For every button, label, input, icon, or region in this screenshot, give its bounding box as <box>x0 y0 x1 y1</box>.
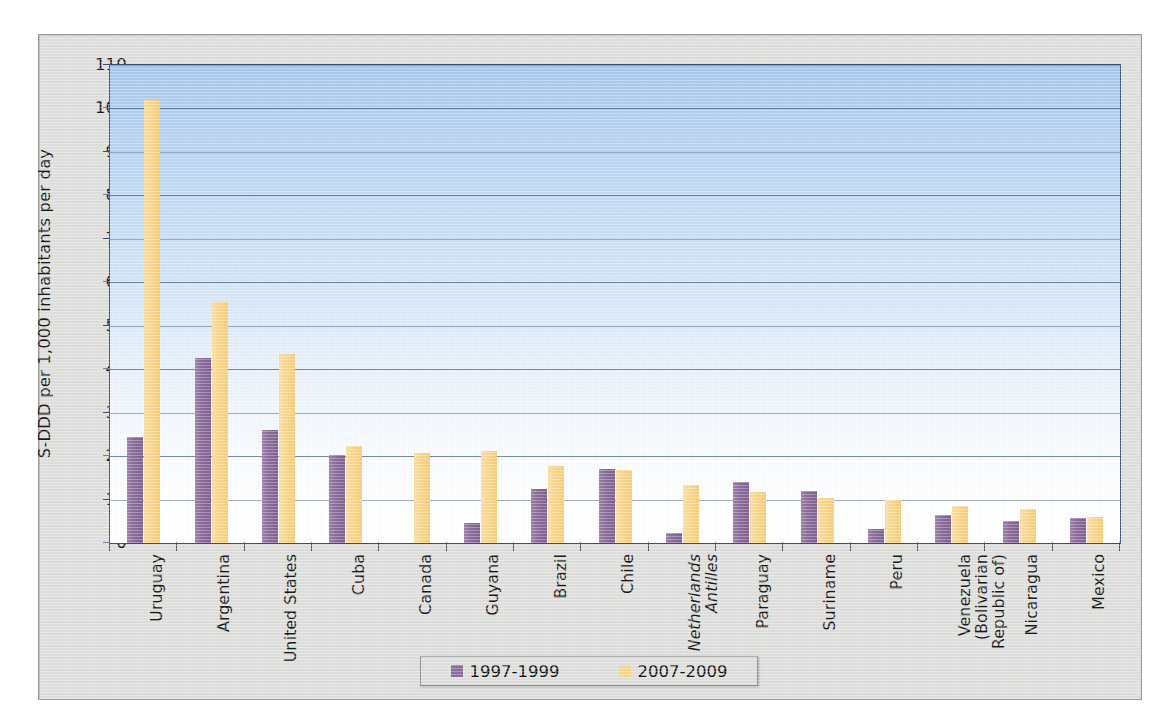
x-axis-label-line: Suriname <box>820 554 839 631</box>
bar <box>212 302 228 543</box>
x-axis-label-line: Argentina <box>214 554 233 632</box>
x-axis-tick-label: Venezuela(BolivarianRepublic of) <box>957 554 1008 722</box>
x-axis-tick-mark <box>715 542 716 551</box>
x-axis-tick-label: Guyana <box>485 554 502 722</box>
bar <box>1003 521 1019 543</box>
x-axis-tick-label: Chile <box>620 554 637 722</box>
x-axis-tick-label: Mexico <box>1091 554 1108 722</box>
bar <box>750 492 766 543</box>
x-axis-tick-label: Suriname <box>822 554 839 722</box>
chart-legend: 1997-19992007-2009 <box>420 656 758 686</box>
bar <box>1087 517 1103 543</box>
x-axis-label-line: Uruguay <box>147 554 166 622</box>
x-axis-tick-mark <box>1119 542 1120 551</box>
x-axis-tick-mark <box>176 542 177 551</box>
x-axis-tick-mark <box>1052 542 1053 551</box>
bar-group <box>397 65 430 543</box>
x-axis-tick-mark <box>446 542 447 551</box>
bar <box>952 506 968 543</box>
bar <box>262 430 278 543</box>
x-axis-tick-mark <box>648 542 649 551</box>
x-axis-label-line: Brazil <box>551 554 570 599</box>
bar-group <box>464 65 497 543</box>
bar <box>801 491 817 543</box>
x-axis-tick-label: Argentina <box>216 554 233 722</box>
bar-group <box>127 65 160 543</box>
x-axis-tick-label: Cuba <box>351 554 368 722</box>
bar-group <box>666 65 699 543</box>
x-axis-tick-label: Canada <box>418 554 435 722</box>
x-axis-tick-mark <box>378 542 379 551</box>
bar-group <box>262 65 295 543</box>
bar <box>733 482 749 543</box>
x-axis-label-line: Mexico <box>1089 554 1108 610</box>
x-axis-label-line: Cuba <box>349 554 368 595</box>
bar <box>481 451 497 543</box>
bar <box>868 529 884 543</box>
bar-group <box>868 65 901 543</box>
bar-group <box>801 65 834 543</box>
x-axis-tick-label: NetherlandsAntilles <box>687 554 721 722</box>
x-axis-tick-mark <box>244 542 245 551</box>
bar-group <box>531 65 564 543</box>
bar <box>885 500 901 543</box>
x-axis-label-line: Venezuela <box>955 554 974 636</box>
bar-group <box>599 65 632 543</box>
bar-group <box>1070 65 1103 543</box>
bar <box>329 455 345 543</box>
legend-item[interactable]: 2007-2009 <box>619 662 728 681</box>
bar <box>279 354 295 543</box>
legend-label: 1997-1999 <box>470 662 560 681</box>
x-axis-tick-label: Peru <box>889 554 906 722</box>
bar <box>195 358 211 543</box>
bar <box>346 446 362 543</box>
bar <box>1070 518 1086 543</box>
legend-swatch-icon <box>451 665 463 677</box>
bar-group <box>733 65 766 543</box>
bar <box>144 100 160 543</box>
x-axis-tick-mark <box>109 542 110 551</box>
x-axis-label-line: Chile <box>618 554 637 594</box>
bar <box>127 437 143 543</box>
plot-area <box>109 64 1121 544</box>
bar-group <box>1003 65 1036 543</box>
legend-label: 2007-2009 <box>638 662 728 681</box>
x-axis-label-line: Antilles <box>704 554 721 722</box>
chart-figure: S-DDD per 1,000 inhabitants per day 0102… <box>38 34 1142 700</box>
x-axis-label-line: Canada <box>416 554 435 615</box>
bar <box>531 489 547 543</box>
x-axis-tick-mark <box>782 542 783 551</box>
legend-swatch-icon <box>619 665 631 677</box>
bar <box>935 515 951 543</box>
x-axis-label-line: Peru <box>887 554 906 590</box>
x-axis-tick-mark <box>850 542 851 551</box>
x-axis-tick-mark <box>513 542 514 551</box>
legend-item[interactable]: 1997-1999 <box>451 662 560 681</box>
bar-group <box>195 65 228 543</box>
x-axis-tick-label: Paraguay <box>755 554 772 722</box>
x-axis-tick-label: Brazil <box>553 554 570 722</box>
x-axis-tick-label: Nicaragua <box>1024 554 1041 722</box>
x-axis-label-line: Nicaragua <box>1022 554 1041 636</box>
bar <box>818 498 834 543</box>
bar-group <box>329 65 362 543</box>
bar <box>464 523 480 543</box>
x-axis-label-line: Paraguay <box>753 554 772 629</box>
bar <box>548 466 564 543</box>
x-axis-tick-label: Uruguay <box>149 554 166 722</box>
bar <box>683 485 699 543</box>
x-axis-tick-mark <box>917 542 918 551</box>
x-axis-label-line: United States <box>281 554 300 662</box>
x-axis-label-line: Republic of) <box>991 554 1008 722</box>
y-axis-title-text: S-DDD per 1,000 inhabitants per day <box>36 148 55 457</box>
bar-group <box>935 65 968 543</box>
x-axis-tick-mark <box>580 542 581 551</box>
x-axis-label-line: Guyana <box>483 554 502 616</box>
x-axis: UruguayArgentinaUnited StatesCubaCanadaG… <box>109 542 1119 552</box>
bar <box>616 470 632 543</box>
x-axis-tick-mark <box>984 542 985 551</box>
y-axis-title: S-DDD per 1,000 inhabitants per day <box>33 64 57 542</box>
bar <box>599 469 615 543</box>
x-axis-tick-label: United States <box>283 554 300 722</box>
bar <box>414 453 430 543</box>
